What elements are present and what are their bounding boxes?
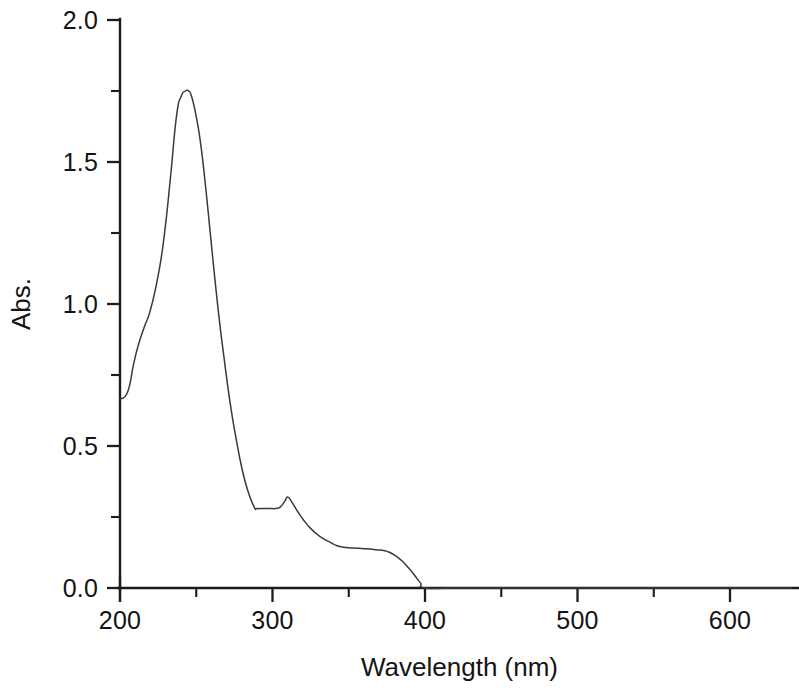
x-axis-tick-labels: 200300400500600 (99, 606, 751, 634)
x-tick-label: 300 (251, 606, 293, 634)
x-axis: 200300400500600 (99, 577, 799, 634)
y-axis-major-ticks (107, 20, 120, 588)
uv-vis-spectrum-figure: 0.00.51.01.52.0 200300400500600 Waveleng… (0, 0, 799, 691)
x-tick-label: 400 (404, 606, 446, 634)
y-axis: 0.00.51.01.52.0 (63, 6, 120, 602)
x-tick-label: 500 (556, 606, 598, 634)
chart-canvas: 0.00.51.01.52.0 200300400500600 Waveleng… (0, 0, 799, 691)
x-tick-label: 200 (99, 606, 141, 634)
y-tick-label: 1.0 (63, 290, 98, 318)
y-axis-tick-labels: 0.00.51.01.52.0 (63, 6, 98, 602)
x-axis-major-ticks (120, 577, 730, 602)
absorbance-curve (120, 90, 791, 589)
series-group (120, 90, 791, 589)
y-tick-label: 0.0 (63, 574, 98, 602)
y-tick-label: 2.0 (63, 6, 98, 34)
y-tick-label: 1.5 (63, 148, 98, 176)
y-tick-label: 0.5 (63, 432, 98, 460)
x-tick-label: 600 (709, 606, 751, 634)
y-axis-title: Abs. (6, 278, 36, 330)
x-axis-title: Wavelength (nm) (361, 652, 558, 682)
